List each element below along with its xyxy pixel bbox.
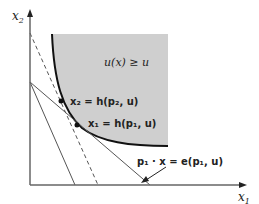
point-x1-label: x₁ = h(p₁, u) [88, 118, 156, 129]
point-x2 [59, 99, 64, 104]
y-axis-arrow [27, 9, 33, 17]
upper-contour-region [52, 34, 168, 146]
svg-text:x2: x2 [12, 9, 24, 25]
budget-pointer-arrow [141, 176, 149, 183]
region-label: u(x) ≥ u [104, 56, 149, 69]
x-axis-arrow [239, 182, 247, 188]
budget-pointer-line [146, 167, 166, 180]
point-x2-label: x₂ = h(p₂, u) [70, 96, 138, 107]
point-x1 [75, 123, 80, 128]
svg-text:x1: x1 [238, 190, 250, 204]
hicksian-demand-diagram: x2 x1 u(x) ≥ u x₂ = h(p₂, u) x₁ = h(p₁, … [0, 0, 259, 204]
budget-label: p₁ · x = e(p₁, u) [137, 156, 223, 167]
